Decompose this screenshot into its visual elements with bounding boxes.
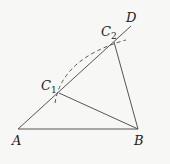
segment-C2B [114,42,138,129]
label-C2: C2 [101,24,117,41]
ray-AD [18,26,131,129]
triangle-construction: A B C1 C2 D [0,0,170,164]
label-A: A [11,133,21,148]
geometry-diagram: A B C1 C2 D [0,0,170,164]
label-C1: C1 [41,78,57,95]
segment-C1B [59,93,138,129]
dashed-arc [55,40,126,103]
label-B: B [133,133,144,148]
label-D: D [125,10,137,25]
